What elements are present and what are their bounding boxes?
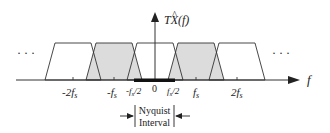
tick-label-fs: fs <box>193 86 199 100</box>
tick-label-minus-2fs: -2fs <box>62 86 77 100</box>
nyquist-label-line2: Interval <box>139 117 170 128</box>
spectral-copy-minus-fs <box>86 43 142 80</box>
ellipsis-right: · · · <box>272 46 290 60</box>
nyquist-label-line1: Nyquist <box>139 105 171 116</box>
nyquist-left-arrow-icon <box>127 113 134 119</box>
x-axis-arrow-icon <box>288 76 300 84</box>
tick-label-minus-fs: -fs <box>107 86 117 100</box>
spectral-copy-plus-fs <box>168 43 224 80</box>
nyquist-right-arrow-icon <box>175 113 182 119</box>
nyquist-bar <box>134 79 175 83</box>
ellipsis-left: · · · <box>17 46 35 60</box>
spectrum-diagram: · · · · · · ^ TX(f) f -2fs -fs -fs/2 0 f… <box>0 0 330 133</box>
tick-label-fs-half: fs/2 <box>167 86 180 98</box>
tick-label-2fs: 2fs <box>231 86 243 100</box>
tick-label-zero: 0 <box>152 83 157 94</box>
x-axis-label: f <box>307 72 313 87</box>
tick-labels: -2fs -fs -fs/2 0 fs/2 fs 2fs <box>62 83 243 100</box>
y-axis-arrow-icon <box>151 12 159 22</box>
y-axis-label: TX(f) <box>164 13 189 27</box>
tick-label-minus-fs-half: -fs/2 <box>126 86 142 98</box>
